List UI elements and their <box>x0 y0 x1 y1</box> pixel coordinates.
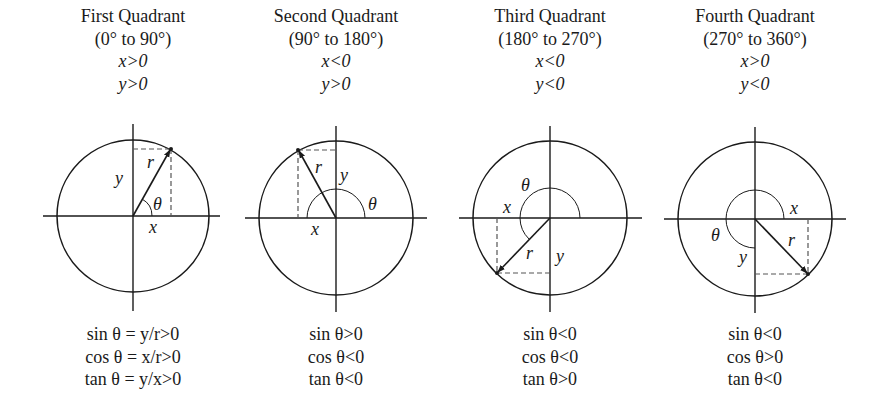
point-marker <box>806 272 810 276</box>
label-x: x <box>148 217 157 237</box>
label-y: y <box>113 168 123 188</box>
quadrant-3-diagram: θ x r y <box>459 126 642 312</box>
label-theta: θ <box>521 175 530 195</box>
quadrant-4-diagram: x θ r y <box>664 127 846 313</box>
label-x: x <box>502 197 511 217</box>
label-r: r <box>526 243 534 263</box>
angle-arc <box>142 199 152 216</box>
radius-vector-arrow <box>755 219 807 273</box>
label-y: y <box>737 247 747 267</box>
label-r: r <box>788 230 796 250</box>
quadrant-diagrams: y r θ x r y θ x θ x r y <box>0 0 876 408</box>
point-marker <box>169 147 173 151</box>
label-theta: θ <box>711 225 720 245</box>
label-y: y <box>554 246 564 266</box>
quadrant-1-diagram: y r θ x <box>43 124 220 311</box>
radius-vector-arrow <box>498 218 550 272</box>
label-x: x <box>789 198 798 218</box>
label-r: r <box>315 157 323 177</box>
label-theta: θ <box>153 194 162 214</box>
point-marker <box>296 148 300 152</box>
label-x: x <box>310 219 319 239</box>
label-theta: θ <box>368 194 377 214</box>
label-r: r <box>147 152 155 172</box>
point-marker <box>495 271 499 275</box>
label-y: y <box>338 165 348 185</box>
quadrant-2-diagram: r y θ x <box>245 126 427 312</box>
